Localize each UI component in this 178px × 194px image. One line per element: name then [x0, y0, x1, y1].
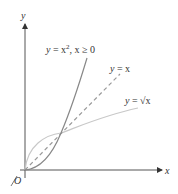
identity-line: [25, 74, 120, 170]
parabola-curve: [25, 58, 87, 170]
origin-label: O: [14, 175, 21, 186]
function-inverse-diagram: y x O y = x2, x ≥ 0 y = x y = √x: [0, 0, 178, 194]
sqrt-curve: [25, 108, 138, 170]
identity-label: y = x: [109, 63, 130, 74]
x-axis-label: x: [164, 165, 170, 176]
y-axis-label: y: [20, 10, 26, 21]
sqrt-label: y = √x: [124, 95, 151, 106]
parabola-label: y = x2, x ≥ 0: [45, 43, 95, 55]
